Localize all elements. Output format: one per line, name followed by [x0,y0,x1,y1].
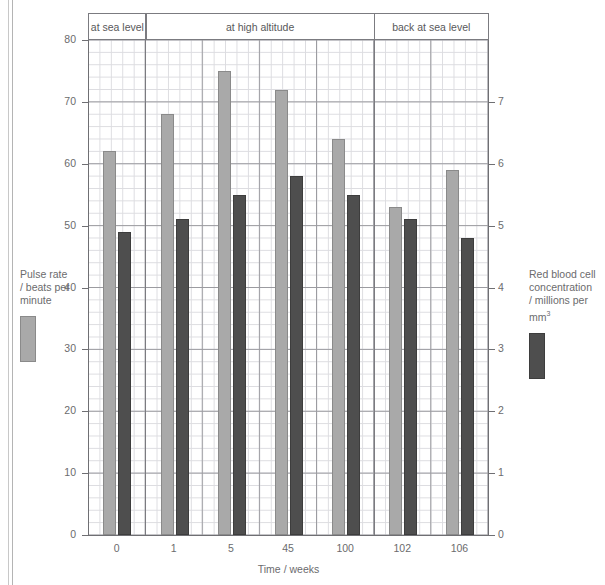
y-axis-left-tick-label: 50 [64,219,76,231]
condition-band-separator [374,13,375,535]
y-axis-right-tick-label: 2 [498,404,504,416]
x-axis-tick-label: 100 [315,542,375,554]
y-axis-right-tick [489,349,495,350]
condition-band: at sea level [89,14,147,39]
legend-left-line1: Pulse rate [20,268,82,281]
y-axis-left-tick-label: 70 [64,95,76,107]
legend-right-line2: concentration [529,281,603,294]
bar-group [374,40,431,535]
bar-pulse-rate [103,151,116,535]
condition-band-header: at sea levelat high altitudeback at sea … [88,13,489,40]
condition-band: at high altitude [147,14,375,39]
y-axis-right-tick [489,226,495,227]
bar-red-blood-cell [176,219,189,535]
y-axis-left-tick-label: 80 [64,33,76,45]
y-axis-left-tick [82,535,88,536]
y-axis-right-tick-label: 0 [498,528,504,540]
y-axis-left-tick-label: 40 [64,281,76,293]
legend-swatch-red-blood-cell [529,333,545,379]
y-axis-left-tick-label: 20 [64,404,76,416]
condition-band-separator [145,13,146,535]
y-axis-right-tick [489,164,495,165]
legend-right-line4: mm3 [529,307,603,324]
bar-pulse-rate [218,71,231,535]
x-axis-title: Time / weeks [88,563,489,575]
y-axis-right-tick-label: 6 [498,157,504,169]
y-axis-right-tick-label: 3 [498,342,504,354]
bar-group [145,40,202,535]
y-axis-left-tick-label: 30 [64,342,76,354]
y-axis-left-tick [82,102,88,103]
x-axis [88,535,489,536]
y-axis-left-tick [82,226,88,227]
bar-group [317,40,374,535]
y-axis-left-tick-label: 60 [64,157,76,169]
page-margin-rule-outer [8,0,9,585]
y-axis-right-tick-label: 5 [498,219,504,231]
bar-red-blood-cell [461,238,474,535]
bar-group [259,40,316,535]
bar-pulse-rate [332,139,345,535]
y-axis-left-tick-label: 10 [64,466,76,478]
legend-red-blood-cell: Red blood cell concentration / millions … [529,268,603,379]
page-margin-rule-inner [12,0,13,585]
bar-red-blood-cell [290,176,303,535]
x-axis-tick-label: 0 [87,542,147,554]
bar-red-blood-cell [233,195,246,535]
bar-series-container [88,40,488,535]
page-title [24,0,584,6]
bar-pulse-rate [389,207,402,535]
x-axis-tick-label: 102 [372,542,432,554]
y-axis-right-tick [489,288,495,289]
bar-group [202,40,259,535]
bar-red-blood-cell [118,232,131,535]
legend-left-line3: minute [20,294,82,307]
legend-swatch-pulse-rate [20,316,36,362]
y-axis-right-tick [489,102,495,103]
y-axis-right-tick [489,473,495,474]
legend-right-line1: Red blood cell [529,268,603,281]
bar-red-blood-cell [347,195,360,535]
y-axis-left-tick-label: 0 [70,528,76,540]
bar-group [431,40,488,535]
y-axis-right-tick [489,411,495,412]
y-axis-left-tick [82,164,88,165]
y-axis-left-tick [82,473,88,474]
y-axis-right-tick-label: 7 [498,95,504,107]
condition-band: back at sea level [375,14,488,39]
legend-right-line3: / millions per [529,294,603,307]
x-axis-tick-label: 106 [429,542,489,554]
y-axis-left-tick [82,40,88,41]
y-axis-right-tick-label: 4 [498,281,504,293]
bar-pulse-rate [446,170,459,535]
bar-pulse-rate [275,90,288,536]
y-axis-left-tick [82,411,88,412]
y-axis-right-tick-label: 1 [498,466,504,478]
y-axis-right-tick [489,535,495,536]
y-axis-left-tick [82,288,88,289]
x-axis-tick-label: 45 [258,542,318,554]
x-axis-tick-label: 1 [144,542,204,554]
bar-red-blood-cell [404,219,417,535]
bar-pulse-rate [161,114,174,535]
bar-group [88,40,145,535]
y-axis-left-tick [82,349,88,350]
x-axis-tick-label: 5 [201,542,261,554]
